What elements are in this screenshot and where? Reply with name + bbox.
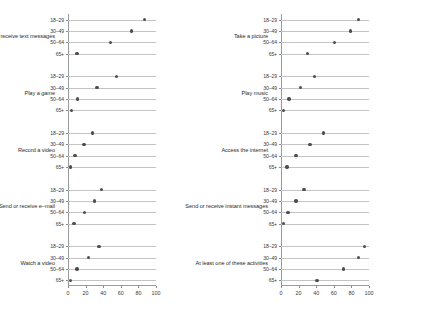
y-tick-mark <box>279 144 281 145</box>
row-line <box>281 99 369 100</box>
row-line <box>68 258 156 259</box>
row-line <box>281 224 369 225</box>
y-tick-mark <box>279 156 281 157</box>
y-tick-mark <box>279 133 281 134</box>
x-tick-label-20: 20 <box>296 290 302 296</box>
y-tick-label-50-64: 50–64 <box>263 209 277 215</box>
group-label: Watch a video <box>20 260 55 266</box>
y-tick-label-18-29: 18–29 <box>263 187 277 193</box>
group-label: Play a game <box>24 90 55 96</box>
row-line <box>281 88 369 89</box>
data-point <box>357 256 360 259</box>
row-line <box>68 31 156 32</box>
y-tick-mark <box>66 224 68 225</box>
row-line <box>68 76 156 77</box>
y-tick-mark <box>66 144 68 145</box>
data-point <box>83 211 86 214</box>
x-tick-mark <box>86 286 87 288</box>
y-tick-label-65-: 65+ <box>269 221 277 227</box>
y-tick-mark <box>66 246 68 247</box>
y-tick-mark <box>66 201 68 202</box>
data-point <box>91 131 94 134</box>
x-tick-mark <box>351 286 352 288</box>
y-tick-label-65-: 65+ <box>269 107 277 113</box>
row-line <box>281 167 369 168</box>
data-point <box>75 267 78 270</box>
data-point <box>299 86 302 89</box>
row-line <box>281 31 369 32</box>
y-tick-mark <box>279 167 281 168</box>
data-point <box>285 165 288 168</box>
group-label: Send or receive text messages <box>0 33 55 39</box>
data-point <box>357 18 360 21</box>
row-line <box>68 167 156 168</box>
data-point <box>69 165 72 168</box>
group-label: Send or receive e–mail <box>0 203 55 209</box>
x-tick-mark <box>369 286 370 288</box>
row-line <box>68 133 156 134</box>
group-label: Record a video <box>18 147 55 153</box>
row-line <box>281 133 369 134</box>
y-tick-mark <box>66 133 68 134</box>
data-point <box>363 245 366 248</box>
data-point <box>72 222 75 225</box>
x-tick-mark <box>281 286 282 288</box>
group-label: Play music <box>241 90 268 96</box>
y-tick-label-65-: 65+ <box>56 51 64 57</box>
row-line <box>68 280 156 281</box>
row-line <box>281 269 369 270</box>
x-tick-mark <box>156 286 157 288</box>
data-point <box>287 97 290 100</box>
data-point <box>95 86 98 89</box>
y-tick-mark <box>279 76 281 77</box>
y-tick-mark <box>279 269 281 270</box>
y-tick-label-65-: 65+ <box>56 277 64 283</box>
data-point <box>143 18 146 21</box>
x-tick-mark <box>299 286 300 288</box>
dot-plot-figure: 18–2930–4950–6465+18–2930–4950–6465+18–2… <box>0 0 426 316</box>
y-tick-label-65-: 65+ <box>56 164 64 170</box>
x-tick-mark <box>334 286 335 288</box>
y-tick-label-50-64: 50–64 <box>50 96 64 102</box>
x-tick-label-80: 80 <box>348 290 354 296</box>
x-tick-mark <box>138 286 139 288</box>
y-tick-label-18-29: 18–29 <box>50 130 64 136</box>
data-point <box>313 75 316 78</box>
row-line <box>68 190 156 191</box>
x-tick-label-40: 40 <box>313 290 319 296</box>
data-point <box>286 211 289 214</box>
row-line <box>281 212 369 213</box>
data-point <box>87 256 90 259</box>
y-tick-mark <box>66 110 68 111</box>
y-tick-label-18-29: 18–29 <box>50 73 64 79</box>
row-line <box>68 54 156 55</box>
x-tick-mark <box>68 286 69 288</box>
y-tick-label-65-: 65+ <box>269 164 277 170</box>
y-tick-mark <box>279 31 281 32</box>
row-line <box>68 269 156 270</box>
panel-left: 18–2930–4950–6465+18–2930–4950–6465+18–2… <box>0 0 213 316</box>
x-tick-mark <box>316 286 317 288</box>
data-point <box>70 109 73 112</box>
y-tick-mark <box>66 212 68 213</box>
data-point <box>97 245 100 248</box>
y-tick-mark <box>66 88 68 89</box>
row-line <box>68 42 156 43</box>
y-tick-mark <box>66 167 68 168</box>
y-tick-mark <box>279 280 281 281</box>
y-tick-mark <box>66 54 68 55</box>
x-axis-line-left <box>68 285 156 286</box>
data-point <box>306 52 309 55</box>
y-tick-label-50-64: 50–64 <box>263 266 277 272</box>
row-line <box>281 258 369 259</box>
group-label: Send or receive instant messages <box>185 203 268 209</box>
y-tick-mark <box>66 258 68 259</box>
data-point <box>82 143 85 146</box>
data-point <box>302 188 305 191</box>
row-line <box>68 246 156 247</box>
row-line <box>281 280 369 281</box>
y-tick-mark <box>279 258 281 259</box>
y-tick-mark <box>279 212 281 213</box>
row-line <box>281 190 369 191</box>
data-point <box>75 52 78 55</box>
